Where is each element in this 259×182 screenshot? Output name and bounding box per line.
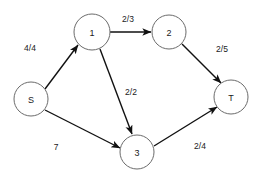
edge-S-1 bbox=[45, 45, 78, 89]
edge-label-S-3: 7 bbox=[54, 142, 59, 152]
node-label-2: 2 bbox=[166, 28, 171, 38]
edge-label-2-T: 2/5 bbox=[216, 44, 228, 54]
node-label-3: 3 bbox=[134, 148, 139, 158]
edge-label-1-2: 2/3 bbox=[122, 14, 134, 24]
network-flow-graph: S 1 2 3 T 4/4 2/3 2/2 2/5 7 2/4 bbox=[0, 0, 259, 182]
edge-3-T bbox=[154, 107, 217, 146]
edge-label-3-T: 2/4 bbox=[194, 141, 206, 151]
node-label-T: T bbox=[228, 93, 234, 103]
edge-label-S-1: 4/4 bbox=[24, 43, 36, 53]
flow-diagram-canvas: S 1 2 3 T 4/4 2/3 2/2 2/5 7 2/4 bbox=[0, 0, 259, 182]
node-label-1: 1 bbox=[89, 28, 94, 38]
edge-labels-layer: 4/4 2/3 2/2 2/5 7 2/4 bbox=[24, 14, 228, 152]
node-label-S: S bbox=[28, 95, 34, 105]
edge-label-1-3: 2/2 bbox=[125, 87, 137, 97]
